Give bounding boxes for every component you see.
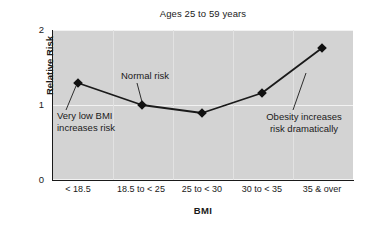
gridline-y-1 — [53, 105, 353, 106]
x-tick-label-2: 25 to < 30 — [169, 184, 235, 194]
y-axis-title: Relative Risk — [44, 11, 55, 121]
x-tick-label-3: 30 to < 35 — [229, 184, 295, 194]
annotation-normal-risk: Normal risk — [121, 70, 169, 82]
y-tick-label-1: 1 — [26, 99, 44, 110]
plot-area — [53, 30, 353, 180]
annotation-very-low-bmi: Very low BMI increases risk — [57, 110, 115, 133]
x-tick-label-1: 18.5 to < 25 — [108, 184, 174, 194]
x-axis-title: BMI — [53, 205, 353, 216]
chart-figure: Ages 25 to 59 years 2 1 0 Relative Risk … — [0, 0, 369, 232]
gridline-x-1 — [113, 30, 114, 180]
x-tick-label-0: < 18.5 — [45, 184, 111, 194]
chart-title: Ages 25 to 59 years — [53, 8, 353, 19]
x-tick-label-4: 35 & over — [289, 184, 355, 194]
annotation-obesity: Obesity increases risk dramatically — [252, 111, 356, 134]
y-tick-label-0: 0 — [26, 174, 44, 185]
gridline-x-3 — [233, 30, 234, 180]
y-tick-label-2: 2 — [26, 24, 44, 35]
gridline-x-2 — [173, 30, 174, 180]
gridline-x-4 — [293, 30, 294, 180]
x-axis — [52, 180, 354, 181]
gridline-y-2 — [53, 30, 353, 31]
